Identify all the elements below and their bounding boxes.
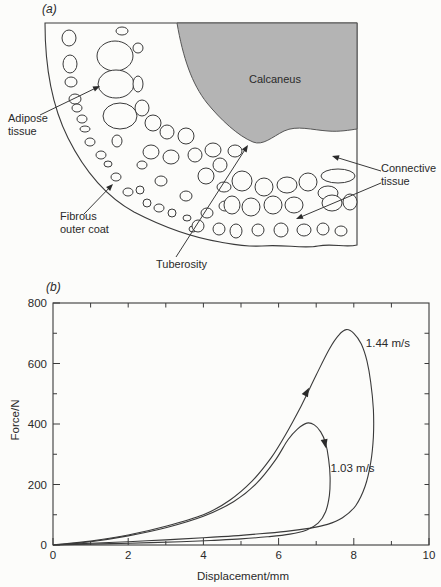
label-calcaneus: Calcaneus [244, 73, 306, 86]
adipose-cell [178, 128, 194, 144]
adipose-cell [112, 135, 122, 147]
adipose-cell [188, 148, 202, 162]
flow-arrows [302, 386, 330, 449]
adipose-cell [80, 126, 90, 132]
label-connective-tissue: Connective tissue [381, 162, 441, 188]
adipose-cell [103, 103, 137, 129]
adipose-cell [97, 41, 133, 71]
series-curves [53, 330, 374, 545]
adipose-cell [155, 176, 167, 186]
x-tick-label: 6 [275, 549, 281, 561]
adipose-cell [160, 125, 174, 139]
adipose-cell [317, 223, 329, 235]
adipose-cell [297, 224, 311, 236]
adipose-cell [228, 145, 242, 157]
force-displacement-chart: 02468100200400600800 1.44 m/s1.03 m/s [0, 280, 441, 587]
adipose-cell [255, 178, 273, 196]
x-tick-label: 2 [125, 549, 131, 561]
adipose-cell [264, 196, 282, 214]
adipose-cell [242, 198, 260, 216]
adipose-cell [63, 55, 77, 73]
adipose-cell [224, 196, 240, 214]
adipose-cell [65, 77, 77, 87]
y-tick-label: 400 [28, 418, 47, 430]
adipose-cell [85, 138, 95, 146]
adipose-cell [163, 150, 179, 164]
adipose-cell [252, 224, 264, 236]
x-tick-label: 8 [351, 549, 357, 561]
adipose-cell [168, 209, 176, 217]
y-tick-label: 600 [28, 358, 47, 370]
adipose-cell [136, 186, 144, 194]
adipose-cell [133, 43, 143, 53]
adipose-cell [137, 161, 147, 169]
adipose-cell [62, 30, 76, 46]
adipose-cell [77, 115, 87, 123]
series-label: 1.03 m/s [330, 462, 374, 474]
adipose-cell [232, 171, 252, 191]
x-tick-label: 0 [50, 549, 56, 561]
adipose-cell [183, 215, 191, 221]
figure-heel-pad: (a) Calcaneus Adipose tissue Fibrous out… [0, 0, 441, 587]
heel-pad-diagram [0, 0, 441, 280]
adipose-cell [230, 224, 242, 238]
adipose-cell [285, 197, 303, 213]
series-curve-1.03m/s [53, 423, 330, 545]
label-tuberosity: Tuberosity [156, 258, 207, 271]
adipose-cell [274, 223, 288, 237]
adipose-cell [205, 143, 221, 157]
adipose-cell [321, 169, 355, 183]
adipose-cell [123, 188, 133, 196]
y-tick-label: 200 [28, 479, 47, 491]
adipose-cell [213, 158, 227, 172]
y-axis-title: Force/N [9, 378, 21, 462]
adipose-cell [143, 145, 159, 159]
adipose-cell [145, 115, 161, 131]
adipose-cell [154, 204, 164, 212]
adipose-cell [143, 199, 151, 207]
y-tick-label: 800 [28, 297, 47, 309]
adipose-cell [133, 76, 143, 92]
adipose-cell [96, 151, 106, 159]
adipose-cell [111, 173, 121, 181]
x-tick-label: 4 [200, 549, 207, 561]
adipose-cell [104, 161, 112, 167]
adipose-cell [277, 177, 297, 193]
series-labels: 1.44 m/s1.03 m/s [330, 337, 410, 475]
adipose-cell [322, 195, 342, 211]
adipose-cell [213, 223, 225, 235]
adipose-cell [116, 27, 128, 35]
series-label: 1.44 m/s [366, 337, 410, 349]
adipose-cell [335, 226, 347, 236]
adipose-cell [198, 168, 214, 184]
adipose-cell [180, 191, 192, 201]
label-fibrous-outer-coat: Fibrous outer coat [60, 210, 109, 236]
adipose-cell [135, 100, 149, 116]
x-axis-title: Displacement/mm [163, 570, 323, 582]
adipose-cell [72, 104, 82, 112]
y-tick-label: 0 [41, 539, 47, 551]
adipose-cell [299, 173, 317, 191]
flow-arrowhead [321, 439, 330, 449]
x-tick-label: 10 [423, 549, 436, 561]
adipose-cell [98, 70, 134, 98]
label-adipose-tissue: Adipose tissue [8, 112, 48, 138]
